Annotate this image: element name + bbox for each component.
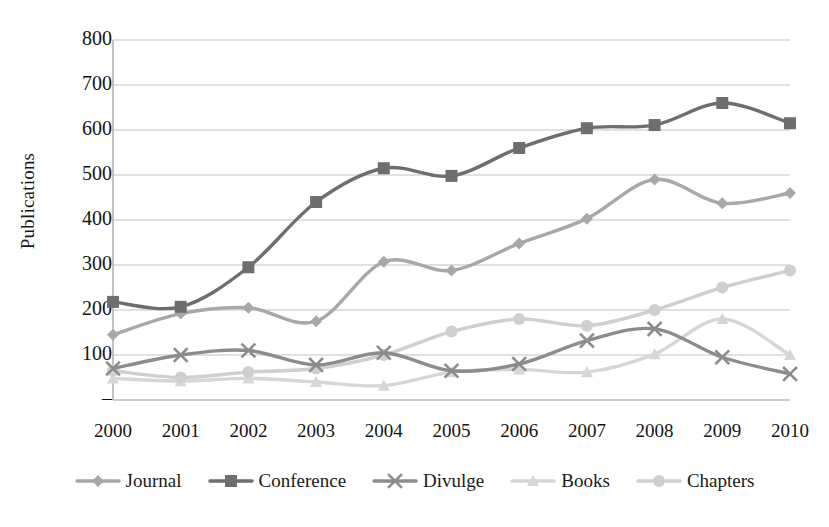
- series-line-journal: [113, 179, 790, 334]
- marker-diamond: [784, 187, 796, 199]
- data-point-square: [581, 122, 593, 134]
- plot-area: [0, 0, 829, 527]
- publications-line-chart: Publications 800700600500400300200100– 2…: [0, 0, 829, 527]
- data-point-diamond: [581, 213, 593, 225]
- marker-square: [513, 142, 525, 154]
- chart-legend: JournalConferenceDivulgeBooksChapters: [0, 470, 829, 492]
- data-point-diamond: [242, 302, 254, 314]
- legend-swatch-square-icon: [208, 471, 254, 491]
- data-point-diamond: [310, 315, 322, 327]
- data-point-diamond: [107, 329, 119, 341]
- legend-item-conference[interactable]: Conference: [208, 470, 347, 492]
- legend-swatch-circle-icon: [636, 471, 682, 491]
- series-line-chapters: [113, 270, 790, 377]
- marker-diamond: [242, 302, 254, 314]
- marker-circle: [242, 366, 254, 378]
- marker-diamond: [92, 475, 104, 487]
- marker-diamond: [513, 237, 525, 249]
- marker-diamond: [716, 197, 728, 209]
- data-point-circle: [513, 313, 525, 325]
- marker-circle: [175, 372, 187, 384]
- series-line-conference: [113, 103, 790, 309]
- marker-square: [446, 170, 458, 182]
- marker-square: [716, 97, 728, 109]
- legend-swatch-x-icon: [372, 471, 418, 491]
- data-point-circle: [175, 372, 187, 384]
- legend-swatch-diamond-icon: [75, 471, 121, 491]
- data-point-circle: [242, 366, 254, 378]
- marker-diamond: [378, 256, 390, 268]
- legend-label: Journal: [126, 470, 182, 492]
- marker-square: [175, 301, 187, 313]
- marker-circle: [513, 313, 525, 325]
- data-point-square: [716, 97, 728, 109]
- data-point-square: [378, 162, 390, 174]
- data-point-square: [242, 261, 254, 273]
- data-point-circle: [378, 349, 390, 361]
- legend-item-divulge[interactable]: Divulge: [372, 470, 484, 492]
- legend-label: Divulge: [423, 470, 484, 492]
- marker-diamond: [310, 315, 322, 327]
- marker-square: [107, 296, 119, 308]
- marker-circle: [649, 304, 661, 316]
- marker-diamond: [446, 264, 458, 276]
- data-point-square: [784, 117, 796, 129]
- marker-square: [242, 261, 254, 273]
- marker-circle: [653, 475, 665, 487]
- marker-square: [649, 119, 661, 131]
- marker-circle: [378, 349, 390, 361]
- data-point-diamond: [92, 475, 104, 487]
- series-journal: [107, 174, 796, 341]
- marker-circle: [784, 264, 796, 276]
- marker-square: [378, 162, 390, 174]
- marker-circle: [446, 326, 458, 338]
- data-point-circle: [581, 320, 593, 332]
- legend-label: Books: [561, 470, 610, 492]
- legend-item-journal[interactable]: Journal: [75, 470, 182, 492]
- data-point-diamond: [784, 187, 796, 199]
- data-point-square: [310, 196, 322, 208]
- legend-swatch-triangle-icon: [510, 471, 556, 491]
- data-point-square: [513, 142, 525, 154]
- marker-square: [784, 117, 796, 129]
- data-point-diamond: [513, 237, 525, 249]
- data-point-square: [175, 301, 187, 313]
- data-point-circle: [649, 304, 661, 316]
- marker-diamond: [581, 213, 593, 225]
- data-point-diamond: [446, 264, 458, 276]
- series-conference: [107, 97, 796, 313]
- series-chapters: [107, 264, 796, 383]
- marker-circle: [716, 282, 728, 294]
- legend-label: Chapters: [687, 470, 755, 492]
- data-point-diamond: [716, 197, 728, 209]
- marker-square: [225, 475, 237, 487]
- data-point-square: [649, 119, 661, 131]
- marker-circle: [581, 320, 593, 332]
- data-point-square: [225, 475, 237, 487]
- marker-square: [581, 122, 593, 134]
- data-point-circle: [446, 326, 458, 338]
- legend-item-books[interactable]: Books: [510, 470, 610, 492]
- data-point-circle: [784, 264, 796, 276]
- data-point-square: [446, 170, 458, 182]
- data-point-diamond: [378, 256, 390, 268]
- marker-square: [310, 196, 322, 208]
- marker-diamond: [107, 329, 119, 341]
- data-point-circle: [716, 282, 728, 294]
- data-point-square: [107, 296, 119, 308]
- data-point-circle: [653, 475, 665, 487]
- legend-label: Conference: [259, 470, 347, 492]
- legend-item-chapters[interactable]: Chapters: [636, 470, 755, 492]
